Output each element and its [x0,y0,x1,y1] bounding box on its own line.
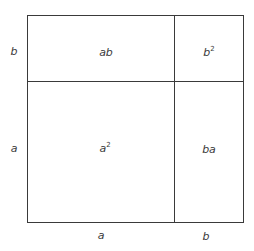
side-label-a-left: a [11,142,18,155]
cell-ba: ba [202,143,216,156]
cell-b-squared-base: b [203,46,210,59]
cell-a-squared-exp: 2 [106,141,110,149]
left-edge [27,15,28,223]
cell-ba-base: ba [202,143,216,156]
cell-ab: ab [99,46,113,59]
top-edge [28,15,244,16]
side-label-b-left: b [11,45,18,58]
cell-b-squared-exp: 2 [210,45,214,53]
cell-a-squared-base: a [99,142,106,155]
cell-b-squared: b2 [203,45,214,59]
cell-ab-base: ab [99,46,113,59]
cell-a-squared: a2 [99,141,110,155]
right-edge [243,15,244,223]
horizontal-divider [28,81,243,82]
bottom-edge [27,222,243,223]
vertical-divider [174,15,175,223]
side-label-b-bottom: b [203,230,210,243]
side-label-a-bottom: a [98,229,105,242]
